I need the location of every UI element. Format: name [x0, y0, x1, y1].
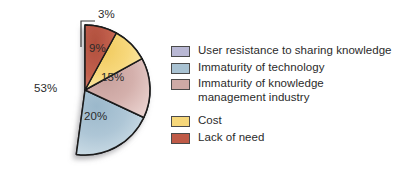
legend-label-immaturity-technology: Immaturity of technology [198, 61, 324, 75]
pie-chart-figure: 53% 20% 15% 9% 3% User resistance to sha… [0, 0, 393, 169]
pie-slices-group [76, 25, 150, 155]
pie-chart-svg [0, 0, 172, 169]
legend-item-user-resistance[interactable]: User resistance to sharing knowledge [171, 44, 393, 58]
legend-item-cost[interactable]: Cost [171, 114, 393, 128]
legend-label-immaturity-km-industry: Immaturity of knowledge management indus… [198, 77, 324, 104]
legend-label-line-1: Immaturity of knowledge [198, 77, 324, 89]
legend-item-immaturity-km-industry[interactable]: Immaturity of knowledge management indus… [171, 77, 393, 104]
legend-label-user-resistance: User resistance to sharing knowledge [198, 44, 392, 58]
legend-item-lack-of-need[interactable]: Lack of need [171, 131, 393, 145]
legend-label-cost: Cost [198, 114, 222, 128]
legend-label-line-2: management industry [198, 91, 324, 105]
legend-swatch-icon-lack-of-need [171, 133, 190, 144]
legend-swatch-icon-cost [171, 116, 190, 127]
chart-legend: User resistance to sharing knowledge Imm… [171, 44, 393, 147]
legend-swatch-icon-user-resistance [171, 46, 190, 57]
legend-swatch-icon-immaturity-km-industry [171, 79, 190, 90]
legend-item-immaturity-technology[interactable]: Immaturity of technology [171, 61, 393, 75]
legend-swatch-icon-immaturity-technology [171, 63, 190, 74]
legend-label-lack-of-need: Lack of need [198, 131, 264, 145]
pie-chart-plot-area: 53% 20% 15% 9% 3% [0, 0, 172, 169]
